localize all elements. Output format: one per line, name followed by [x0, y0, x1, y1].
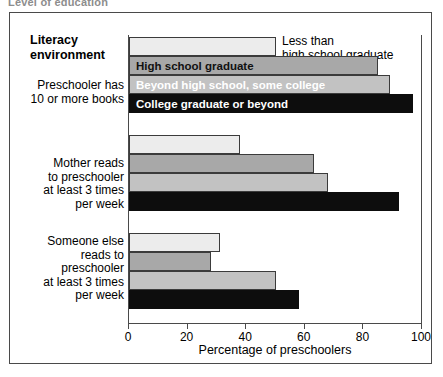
x-axis-tick — [245, 324, 246, 329]
chart-figure-frame: Literacy environment Preschooler has 10 … — [9, 12, 432, 364]
x-axis-tick-label: 60 — [297, 330, 310, 344]
annotation-line: Less than — [282, 34, 334, 48]
x-axis-tick-label: 80 — [356, 330, 369, 344]
bar-books-less-than-hs[interactable]: Less than high school graduate — [129, 37, 276, 56]
bar-books-hs-graduate[interactable]: High school graduate — [129, 56, 378, 75]
x-axis-tick-label: 20 — [180, 330, 193, 344]
bar-label-college-graduate: College graduate or beyond — [136, 98, 288, 110]
bar-books-some-college[interactable]: Beyond high school, some college — [129, 75, 390, 94]
x-axis-line — [128, 323, 422, 324]
bar-someone-less-than-hs[interactable] — [129, 233, 220, 252]
bar-someone-some-college[interactable] — [129, 271, 276, 290]
category-label-line: per week — [16, 198, 124, 212]
bar-mother-less-than-hs[interactable] — [129, 135, 240, 154]
bar-someone-hs-graduate[interactable] — [129, 252, 211, 271]
x-axis-title: Percentage of preschoolers — [128, 343, 422, 357]
category-label-someone-else-reads: Someone else reads to preschooler at lea… — [16, 235, 124, 303]
category-label-line: at least 3 times — [16, 184, 124, 198]
category-label-books: Preschooler has 10 or more books — [16, 79, 124, 106]
bar-mother-some-college[interactable] — [129, 173, 328, 192]
category-label-line: to preschooler — [16, 171, 124, 185]
category-label-line: 10 or more books — [16, 93, 124, 107]
x-axis-tick-label: 0 — [125, 330, 132, 344]
bar-someone-college-graduate[interactable] — [129, 290, 299, 309]
category-label-line: Mother reads — [16, 157, 124, 171]
category-label-line: Preschooler has — [16, 79, 124, 93]
bar-books-college-graduate[interactable]: College graduate or beyond — [129, 94, 413, 113]
category-label-line: Someone else — [16, 235, 124, 249]
category-axis-labels: Preschooler has 10 or more books Mother … — [16, 35, 124, 323]
x-axis-tick — [362, 324, 363, 329]
category-label-line: reads to — [16, 249, 124, 263]
bar-label-some-college: Beyond high school, some college — [136, 79, 325, 91]
bar-label-hs-graduate: High school graduate — [136, 60, 254, 72]
x-axis-tick — [187, 324, 188, 329]
x-axis-tick — [128, 324, 129, 329]
plot-right-border — [421, 35, 422, 324]
category-label-line: at least 3 times — [16, 276, 124, 290]
x-axis-tick-label: 100 — [411, 330, 431, 344]
figure-caption-partial: Level of education — [8, 0, 308, 8]
category-label-line: preschooler — [16, 262, 124, 276]
bar-mother-college-graduate[interactable] — [129, 192, 399, 211]
bar-mother-hs-graduate[interactable] — [129, 154, 314, 173]
x-axis-tick-label: 40 — [239, 330, 252, 344]
x-axis-tick — [304, 324, 305, 329]
category-label-mother-reads: Mother reads to preschooler at least 3 t… — [16, 157, 124, 211]
plot-area: 020406080100 Less than high school gradu… — [128, 35, 422, 323]
x-axis-tick — [421, 324, 422, 329]
category-label-line: per week — [16, 289, 124, 303]
